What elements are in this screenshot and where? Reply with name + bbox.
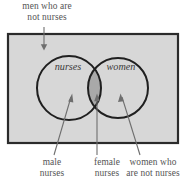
set-label-women: women [107,61,136,72]
caption-male-nurses: male nurses [22,157,82,180]
caption-universe-line2: not nurses [0,12,94,23]
caption-male-nurses-line2: nurses [22,168,82,179]
set-label-nurses: nurses [55,61,82,72]
caption-universe-line1: men who are [0,1,94,12]
caption-male-nurses-line1: male [22,157,82,168]
caption-women-not-nurses: women who are not nurses [118,157,188,180]
caption-women-not-nurses-line1: women who [118,157,188,168]
caption-universe: men who are not nurses [0,1,94,24]
caption-women-not-nurses-line2: are not nurses [118,168,188,179]
